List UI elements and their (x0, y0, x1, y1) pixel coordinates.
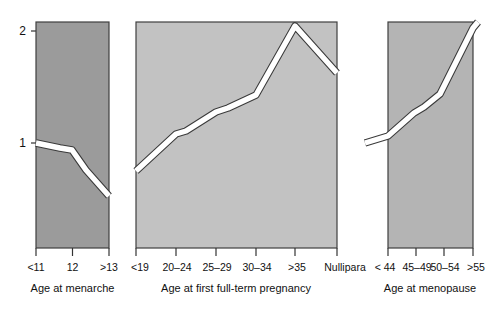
panel3-axis-title: Age at menopause (384, 282, 476, 294)
panel-age-at-first-full-term-pregnancy: <19 20–24 25–29 30–34 >35 Nullipara Age … (131, 22, 366, 294)
panel3-x-label-0: < 44 (375, 261, 396, 273)
panel2-plot-area (136, 22, 337, 248)
panel1-x-label-1: 12 (67, 261, 79, 273)
y-tick-label-1: 1 (19, 136, 26, 150)
panel1-x-label-0: <11 (27, 261, 44, 273)
y-axis: 2 1 (19, 24, 36, 150)
panel1-x-label-2: >13 (100, 261, 118, 273)
panel3-x-label-2: 50–54 (430, 261, 459, 273)
panel2-x-label-4: >35 (288, 261, 306, 273)
panel2-axis-title: Age at first full-term pregnancy (161, 282, 311, 294)
panel1-plot-area (36, 22, 109, 248)
risk-factor-chart: 2 1 <11 12 >13 Age at menarche (0, 0, 499, 311)
panel-age-at-menarche: <11 12 >13 Age at menarche (27, 22, 118, 294)
panel2-x-label-1: 20–24 (162, 261, 191, 273)
panel2-x-label-3: 30–34 (242, 261, 271, 273)
panel2-x-label-2: 25–29 (202, 261, 231, 273)
panel-age-at-menopause: < 44 45–49 50–54 >55 Age at menopause (365, 22, 485, 294)
panel3-x-label-1: 45–49 (402, 261, 431, 273)
y-tick-label-2: 2 (19, 24, 26, 38)
panel2-x-label-5: Nullipara (324, 261, 366, 273)
panel1-axis-title: Age at menarche (31, 282, 115, 294)
panel3-x-label-3: >55 (467, 261, 485, 273)
panel2-x-label-0: <19 (131, 261, 149, 273)
chart-canvas: 2 1 <11 12 >13 Age at menarche (0, 0, 499, 311)
